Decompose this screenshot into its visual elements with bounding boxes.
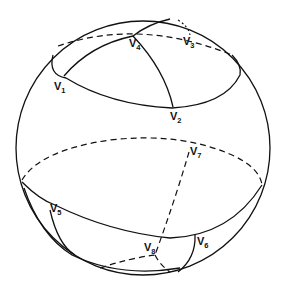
lower-circle-back xyxy=(22,138,262,185)
label-v2: V2 xyxy=(170,110,182,125)
label-v4: V4 xyxy=(129,37,141,52)
label-v7: V7 xyxy=(190,145,202,160)
edge-v1-v4 xyxy=(64,36,133,76)
edge-bottom-dashed xyxy=(100,255,155,268)
sphere-diagram: V1 V2 V3 V4 V5 V6 V7 V8 xyxy=(0,0,281,294)
label-v6: V6 xyxy=(197,235,209,250)
sphere-outline xyxy=(16,21,270,275)
label-v8: V8 xyxy=(144,241,156,256)
edge-v6-bottom xyxy=(178,235,195,272)
edge-v7-v8 xyxy=(155,152,189,255)
label-v3: V3 xyxy=(183,35,195,50)
upper-circle-front xyxy=(52,55,240,108)
label-v1: V1 xyxy=(54,80,66,95)
